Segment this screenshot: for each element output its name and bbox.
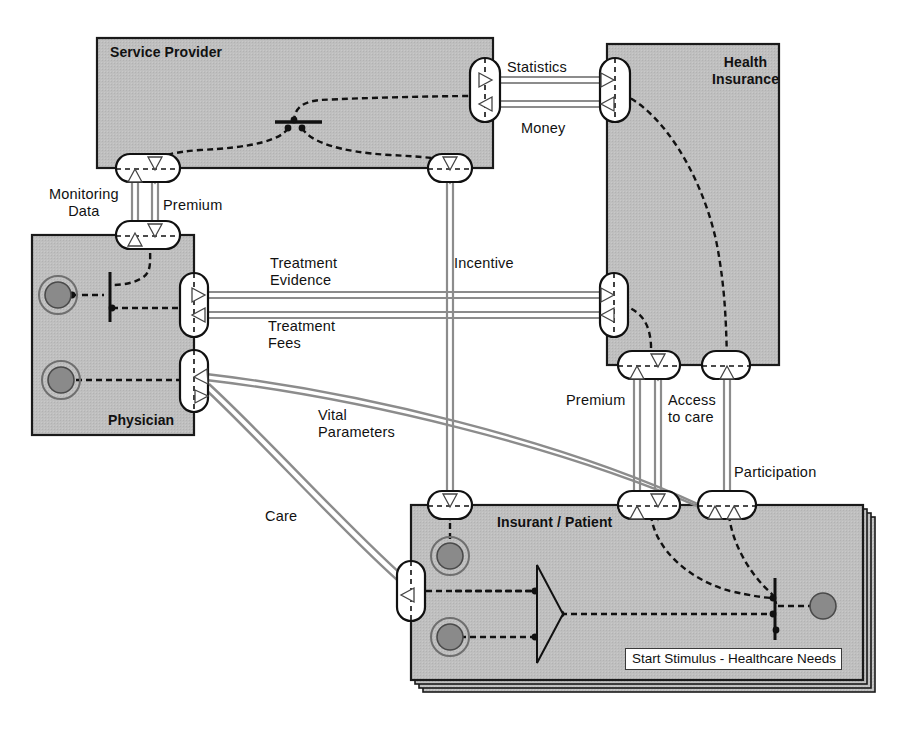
connector-label-participation: Participation <box>734 464 816 481</box>
connector-label-treatment-fees: Treatment Fees <box>268 318 335 352</box>
connector-label-access-to-care: Access to care <box>668 392 716 426</box>
component-box-physician[interactable] <box>32 235 194 435</box>
port-ph-treatment <box>180 273 208 337</box>
component-box-health-insurance[interactable] <box>607 44 779 365</box>
port-sp-incentive <box>428 154 472 182</box>
connector-label-vital-parameters: Vital Parameters <box>318 407 395 441</box>
port-hi-treatment <box>600 273 628 337</box>
start-stimulus-note: Start Stimulus - Healthcare Needs <box>625 648 842 670</box>
connector-premium-bottom[interactable] <box>634 377 640 504</box>
component-label-service-provider: Service Provider <box>110 44 222 61</box>
connector-label-care: Care <box>265 508 297 525</box>
component-label-physician: Physician <box>108 412 174 429</box>
connector-label-premium-top: Premium <box>163 197 222 214</box>
port-ip-care-vital <box>397 561 425 621</box>
port-sp-monitoring-premium <box>116 154 180 182</box>
diagram-svg <box>0 0 911 734</box>
activity-node-physician-2 <box>42 361 80 399</box>
activity-node-physician-1 <box>39 276 77 314</box>
final-node-insurant <box>810 593 836 619</box>
connector-money[interactable] <box>492 101 606 107</box>
connector-statistics[interactable] <box>492 77 606 83</box>
port-hi-premium-access <box>618 351 680 379</box>
port-hi-participation <box>702 351 750 379</box>
connector-label-treatment-evidence: Treatment Evidence <box>270 255 337 289</box>
connector-label-monitoring-data: Monitoring Data <box>49 186 119 220</box>
connector-treatment-evidence[interactable] <box>205 292 606 298</box>
activity-node-insurant-2 <box>431 618 469 656</box>
connector-label-premium-bottom: Premium <box>566 392 625 409</box>
port-ph-care-vital <box>180 350 208 412</box>
connector-treatment-fees[interactable] <box>205 312 606 318</box>
port-ip-incentive <box>428 491 472 519</box>
port-ip-premium-access <box>618 491 680 519</box>
activity-node-insurant-1 <box>431 537 469 575</box>
component-label-health-insurance: Health Insurance <box>712 54 779 88</box>
connector-label-incentive: Incentive <box>454 255 514 272</box>
diagram-canvas: Service Provider Health Insurance Physic… <box>0 0 911 734</box>
connector-label-money: Money <box>521 120 566 137</box>
port-ip-participation <box>698 491 756 519</box>
connector-label-statistics: Statistics <box>507 59 567 76</box>
port-sp-statistics-money <box>470 58 500 122</box>
connector-participation[interactable] <box>724 377 730 504</box>
connector-incentive[interactable] <box>447 180 453 504</box>
port-hi-statistics-money <box>600 58 630 122</box>
connector-vital-parameters[interactable] <box>206 374 704 509</box>
component-label-insurant-patient: Insurant / Patient <box>497 514 612 531</box>
port-ph-monitoring-premium <box>116 221 180 249</box>
